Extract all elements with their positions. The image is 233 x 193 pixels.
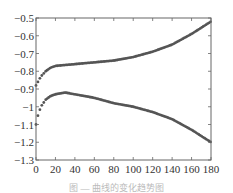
data-point [40, 104, 43, 107]
x-tick-label: 0 [33, 163, 39, 175]
data-point [38, 108, 41, 111]
y-tick-label: −0.9 [14, 83, 34, 95]
x-tick-label: 80 [108, 163, 120, 175]
x-tick-label: 60 [89, 163, 101, 175]
x-tick-label: 100 [125, 163, 142, 175]
x-tick-label: 120 [144, 163, 161, 175]
y-tick-label: −1 [22, 101, 34, 113]
line-chart: 020406080100120140160180−0.5−0.6−0.7−0.8… [0, 0, 233, 193]
plot-area [35, 20, 212, 143]
data-point [37, 81, 40, 84]
figure-caption: 图 — 曲线的变化趋势图 [0, 181, 233, 193]
data-point [40, 74, 43, 77]
x-tick-label: 180 [203, 163, 220, 175]
x-tick-label: 40 [69, 163, 81, 175]
y-tick-label: −1.1 [14, 119, 34, 131]
y-tick-label: −0.5 [14, 12, 34, 24]
series-upper [35, 20, 212, 86]
x-tick-label: 160 [183, 163, 200, 175]
x-tick-label: 20 [50, 163, 62, 175]
data-point [42, 101, 45, 104]
series-lower [35, 91, 212, 143]
y-tick-label: −0.6 [14, 30, 34, 42]
y-tick-label: −0.8 [14, 65, 34, 77]
data-point [38, 77, 41, 80]
y-tick-label: −1.3 [14, 154, 34, 166]
data-point [37, 114, 40, 117]
x-tick-label: 140 [164, 163, 181, 175]
y-tick-label: −1.2 [14, 136, 34, 148]
plot-frame [36, 18, 211, 160]
data-point [42, 72, 45, 75]
y-tick-label: −0.7 [14, 48, 34, 60]
